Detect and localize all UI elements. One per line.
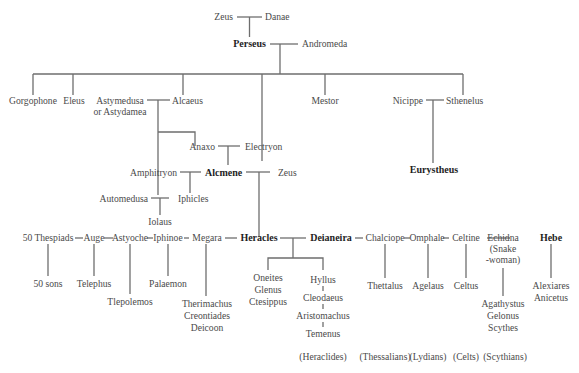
person-astydamea: or Astydamea	[93, 106, 146, 117]
person-omphale: Omphale	[409, 232, 444, 243]
people-lydians: (Lydians)	[410, 351, 447, 362]
people-scythians: (Scythians)	[483, 351, 527, 362]
person-iphicles: Iphicles	[178, 193, 208, 204]
person-creontiades: Creontiades	[184, 310, 230, 321]
person-astyoche: Astyoche	[112, 232, 148, 243]
person-amphitryon: Amphitryon	[130, 167, 177, 178]
person-ctesippus: Ctesippus	[249, 296, 287, 307]
person-echidna: Echidna	[487, 232, 518, 243]
person-therimachus: Therimachus	[182, 298, 232, 309]
person-alcaeus: Alcaeus	[172, 95, 203, 106]
person-chalciope: Chalciope	[366, 232, 405, 243]
person-telephus: Telephus	[77, 278, 112, 289]
person-alcmene: Alcmene	[205, 167, 242, 178]
person-echidna-note-1: (Snake	[490, 243, 517, 254]
person-oneites: Oneites	[253, 272, 282, 283]
person-glenus: Glenus	[254, 284, 281, 295]
family-tree-diagram: Zeus Danae Perseus Andromeda Gorgophone …	[0, 0, 579, 373]
people-thessalians: (Thessalians)	[359, 351, 410, 362]
person-cleodaeus: Cleodaeus	[303, 292, 343, 303]
person-scythes: Scythes	[488, 322, 518, 333]
person-agelaus: Agelaus	[412, 280, 443, 291]
person-zeus: Zeus	[214, 11, 233, 22]
person-tlepolemos: Tlepolemos	[107, 296, 152, 307]
person-zeus-father-of-heracles: Zeus	[278, 167, 297, 178]
person-echidna-note-2: -woman)	[486, 254, 521, 265]
person-50-thespiads: 50 Thespiads	[23, 232, 74, 243]
person-heracles: Heracles	[240, 232, 277, 243]
person-temenus: Temenus	[306, 328, 341, 339]
person-danae: Danae	[265, 11, 290, 22]
person-astymedusa: Astymedusa	[96, 95, 143, 106]
person-andromeda: Andromeda	[302, 38, 347, 49]
person-anicetus: Anicetus	[534, 292, 568, 303]
person-nicippe: Nicippe	[393, 95, 423, 106]
person-megara: Megara	[192, 232, 221, 243]
person-50-sons: 50 sons	[33, 278, 62, 289]
people-heraclides: (Heraclides)	[299, 351, 346, 362]
person-celtus: Celtus	[454, 280, 479, 291]
person-gelonus: Gelonus	[487, 310, 519, 321]
person-auge: Auge	[84, 232, 105, 243]
person-deianeira: Deianeira	[310, 232, 352, 243]
person-mestor: Mestor	[311, 95, 338, 106]
person-iolaus: Iolaus	[148, 216, 171, 227]
person-palaemon: Palaemon	[149, 278, 187, 289]
person-deicoon: Deicoon	[191, 322, 224, 333]
person-alexiares: Alexiares	[533, 280, 570, 291]
people-celts: (Celts)	[453, 351, 479, 362]
person-automedusa: Automedusa	[100, 193, 149, 204]
person-aristomachus: Aristomachus	[296, 310, 349, 321]
person-electryon: Electryon	[245, 141, 282, 152]
person-perseus: Perseus	[233, 38, 266, 49]
person-hyllus: Hyllus	[310, 274, 336, 285]
person-eurystheus: Eurystheus	[410, 164, 458, 175]
person-sthenelus: Sthenelus	[446, 95, 483, 106]
person-agathystus: Agathystus	[481, 298, 524, 309]
person-eleus: Eleus	[63, 95, 84, 106]
person-iphinoe: Iphinoe	[153, 232, 182, 243]
person-thettalus: Thettalus	[367, 280, 403, 291]
person-gorgophone: Gorgophone	[9, 95, 57, 106]
person-celtine: Celtine	[452, 232, 480, 243]
person-anaxo: Anaxo	[189, 141, 215, 152]
person-hebe: Hebe	[540, 232, 562, 243]
